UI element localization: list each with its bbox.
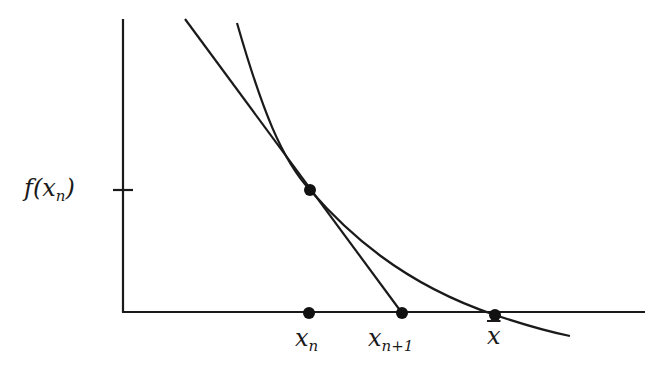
xbar-label: x [487,322,501,350]
tangent-point [304,184,316,196]
xn1-label: xn+1 [368,324,413,352]
root-point [489,309,501,321]
f-xn-label: f(xn) [24,174,75,202]
xn-label: xn [295,324,318,352]
newton-method-diagram [0,0,671,373]
xn-point [303,307,315,319]
xn1-point [396,307,408,319]
tangent-line [185,19,402,313]
function-curve [237,23,570,336]
